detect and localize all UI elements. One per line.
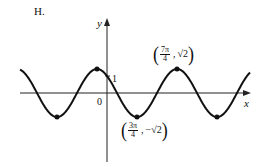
figure: H. y x 0 1 ( 7π 4 , √2 ) ( 3π 4 , −√2 ) — [0, 0, 264, 167]
min-point-annotation: ( 3π 4 , −√2 ) — [121, 121, 168, 139]
plot-area — [0, 0, 264, 167]
max-point-dot — [175, 67, 180, 72]
min-point-dot — [215, 115, 220, 120]
min-point-dot — [55, 115, 60, 120]
max-point-dot — [95, 67, 100, 72]
y-axis-arrow-icon — [104, 18, 110, 26]
x-axis-label: x — [244, 98, 249, 109]
max-point-annotation: ( 7π 4 , √2 ) — [153, 45, 194, 63]
origin-label: 0 — [97, 97, 102, 107]
y-axis-label: y — [97, 18, 102, 29]
min-point-dot — [135, 115, 140, 120]
x-axis-arrow-icon — [243, 90, 251, 96]
figure-label: H. — [34, 6, 45, 17]
y-tick-label: 1 — [112, 74, 117, 84]
